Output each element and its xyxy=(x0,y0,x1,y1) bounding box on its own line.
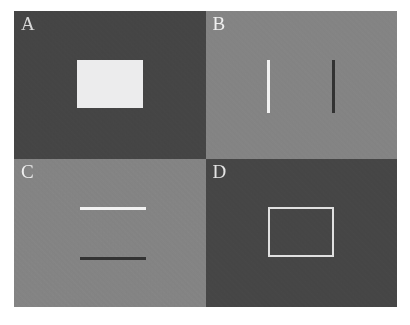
dark-horizontal-line-stimulus xyxy=(80,257,146,260)
panel-b-label: B xyxy=(213,12,226,36)
panel-d-label: D xyxy=(213,160,227,184)
light-horizontal-line-stimulus xyxy=(80,207,146,210)
outlined-rectangle-stimulus xyxy=(268,207,334,257)
panel-a-label: A xyxy=(21,12,35,36)
panel-d: D xyxy=(206,159,398,307)
dark-vertical-line-stimulus xyxy=(332,60,335,113)
panel-a: A xyxy=(14,11,206,159)
panel-b: B xyxy=(206,11,398,159)
panel-c-label: C xyxy=(21,160,34,184)
filled-rectangle-stimulus xyxy=(77,60,143,108)
light-vertical-line-stimulus xyxy=(267,60,270,113)
four-panel-figure: A B C D xyxy=(14,11,397,307)
panel-c: C xyxy=(14,159,206,307)
